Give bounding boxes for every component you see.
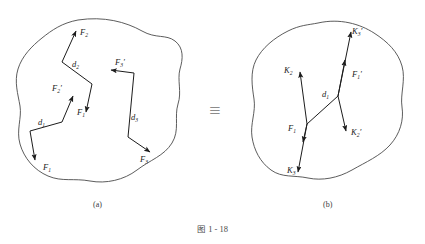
force-vector-f1-prime-b [338, 60, 345, 96]
force-vector-k2-b [300, 72, 307, 124]
label-force-f1-prime-a: F1′ [77, 108, 87, 117]
label-arm-d2: d2 [72, 60, 79, 69]
label-force-k3-prime-b: K3′ [352, 27, 362, 36]
label-force-k2-prime-b: K2′ [351, 128, 361, 137]
label-arm-d3: d3 [131, 113, 138, 122]
label-force-f1-b: F1 [288, 124, 296, 133]
figure-page: F2 d2 F2′ F1′ d1 F1 F3′ d3 F3 ≡ K3′ K2 F… [0, 0, 425, 244]
rigid-body-outline-b [252, 21, 404, 179]
force-vector-f3-a [128, 137, 150, 152]
label-force-f3-a: F3 [140, 155, 148, 164]
panel-label-b: (b) [323, 200, 332, 209]
panel-label-a: (a) [93, 200, 102, 209]
label-force-f1-prime-b: F1′ [352, 70, 362, 79]
figure-canvas [0, 0, 425, 244]
label-force-f2-prime-a: F2′ [52, 84, 62, 93]
force-vector-f1-prime-a [62, 96, 73, 122]
label-force-f2-a: F2 [80, 28, 88, 37]
force-vector-f2-a [62, 31, 76, 62]
force-vector-f3-prime-a [111, 70, 134, 73]
label-arm-d1-a: d1 [38, 118, 45, 127]
rigid-body-outline-a [16, 19, 182, 182]
moment-arm-d1-a [30, 122, 62, 131]
label-force-f1-a: F1 [43, 163, 51, 172]
label-force-k3-b: K3 [287, 166, 295, 175]
label-force-f3-prime-a: F3′ [115, 58, 125, 67]
force-vector-k3-b [298, 124, 307, 172]
label-force-k2-b: K2 [284, 66, 292, 75]
label-arm-d1-b: d1 [322, 90, 329, 99]
figure-caption: 图 1 - 18 [0, 222, 425, 234]
equivalence-symbol: ≡ [201, 98, 229, 122]
force-vector-k2-prime-b [338, 96, 346, 131]
moment-arm-d3 [128, 73, 134, 137]
moment-arm-d1-b [307, 96, 338, 124]
force-vector-f1-a [30, 131, 35, 160]
